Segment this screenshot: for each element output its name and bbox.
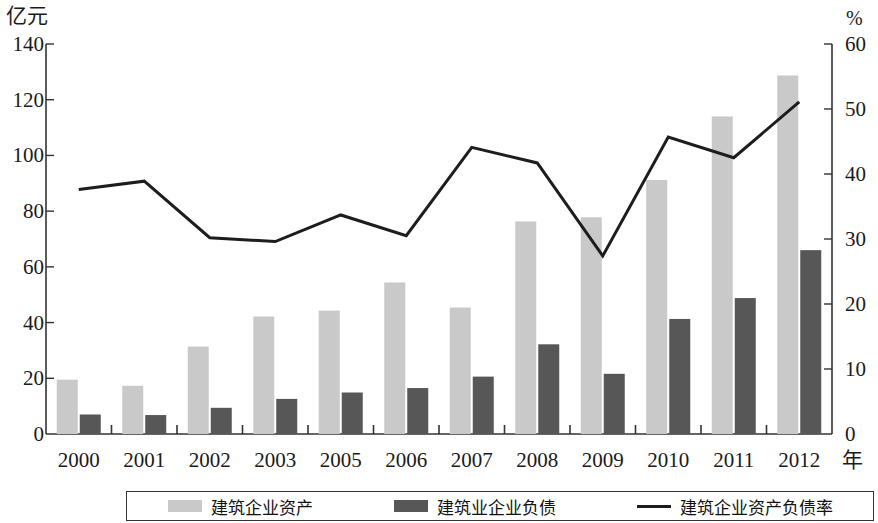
bar-liabilities-2000 — [80, 415, 101, 435]
bar-liabilities-2011 — [735, 298, 756, 434]
bar-assets-2010 — [646, 180, 667, 434]
bar-liabilities-2001 — [145, 415, 166, 434]
bar-liabilities-2005 — [342, 392, 363, 434]
bar-assets-2005 — [319, 311, 340, 434]
bar-liabilities-2002 — [211, 408, 232, 434]
legend-label: 建筑企业资产 — [211, 494, 313, 519]
bar-assets-2001 — [122, 386, 143, 434]
bar-assets-2006 — [384, 282, 405, 434]
bar-assets-2011 — [712, 116, 733, 434]
construction-enterprise-assets-chart: 亿元 % 020406080100120140 0102030405060 20… — [0, 0, 878, 523]
bar-assets-2008 — [515, 221, 536, 434]
bar-liabilities-2007 — [473, 377, 494, 434]
chart-legend: 建筑企业资产建筑业企业负债建筑企业资产负债率 — [126, 491, 874, 521]
bar-liabilities-2010 — [669, 319, 690, 434]
legend-bar-swatch — [394, 500, 428, 512]
bar-assets-2012 — [777, 75, 798, 434]
legend-item-0: 建筑企业资产 — [168, 494, 313, 519]
bar-liabilities-2006 — [407, 388, 428, 434]
line-series-debt-ratio — [79, 102, 800, 256]
bar-assets-2002 — [188, 347, 209, 434]
bar-assets-2000 — [57, 380, 78, 434]
legend-bar-swatch — [168, 500, 202, 512]
legend-item-1: 建筑业企业负债 — [394, 494, 556, 519]
plot-area — [0, 0, 878, 523]
bar-liabilities-2009 — [604, 374, 625, 434]
bar-assets-2007 — [450, 308, 471, 434]
bar-assets-2003 — [253, 316, 274, 434]
legend-label: 建筑企业资产负债率 — [680, 494, 833, 519]
bar-liabilities-2012 — [800, 250, 821, 434]
legend-item-2: 建筑企业资产负债率 — [637, 494, 833, 519]
legend-label: 建筑业企业负债 — [437, 494, 556, 519]
legend-line-swatch — [637, 505, 671, 508]
bar-liabilities-2003 — [276, 399, 297, 434]
bar-liabilities-2008 — [538, 344, 559, 434]
